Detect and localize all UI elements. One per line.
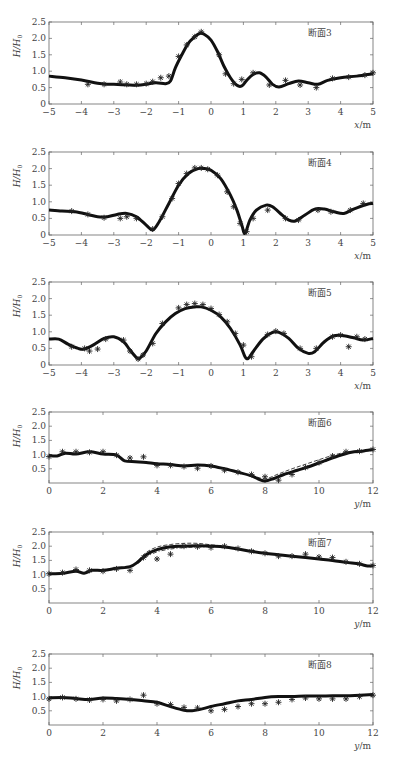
x-tick-label: −3 [107,368,121,378]
measured-point-marker [168,551,174,557]
measured-point-marker [362,72,368,78]
measured-point-marker [370,563,376,569]
x-tick-label: 0 [46,728,52,738]
x-tick-label: 3 [305,368,311,378]
measured-point-marker [87,348,93,354]
x-tick-label: 6 [208,606,214,616]
measured-point-marker [330,555,336,561]
measured-point-marker [124,214,130,220]
computed-curve [49,33,373,87]
x-tick-label: 4 [338,107,344,117]
measured-point-marker [95,346,101,352]
measured-point-marker [289,696,295,702]
chart-panel-section-3: −5−4−3−2−101234500.51.01.52.02.5H/H0x/m断… [12,17,376,130]
measured-point-marker [346,344,352,350]
measured-point-marker [87,449,93,455]
panel-title: 断面7 [308,537,332,548]
measured-point-marker [114,566,120,572]
measured-point-marker [330,334,336,340]
measured-point-marker [195,465,201,471]
measured-point-marker [168,702,174,708]
x-tick-label: 4 [338,238,344,248]
measured-point-marker [343,559,349,565]
x-tick-label: 0 [46,486,52,496]
y-tick-label: 1.0 [32,450,47,460]
y-axis-label: H/H0 [12,425,23,449]
measured-point-marker [357,448,363,454]
measured-point-marker [208,708,214,714]
x-tick-label: 2 [100,486,106,496]
measured-point-marker [303,464,309,470]
measured-point-marker [117,215,123,221]
measured-point-marker [60,694,66,700]
x-tick-label: 1 [241,107,247,117]
measured-point-marker [100,696,106,702]
measured-point-marker [121,337,127,343]
measured-point-marker [168,462,174,468]
y-tick-label: 2.0 [32,663,47,673]
measured-point-marker [357,561,363,567]
y-tick-label: 0.5 [32,584,47,594]
measured-point-marker [87,567,93,573]
panel-title: 断面4 [308,157,332,168]
x-tick-label: 10 [313,486,325,496]
measured-point-marker [150,226,156,232]
chart-panel-section-5: −5−4−3−2−101234500.51.01.52.02.5H/H0x/m断… [12,277,376,391]
measured-point-marker [330,75,336,81]
x-tick-label: −2 [140,107,153,117]
x-tick-label: 0 [208,238,214,248]
y-axis-label: H/H0 [12,295,23,319]
measured-point-marker [262,701,268,707]
measured-point-marker [222,706,228,712]
measured-point-marker [276,699,282,705]
measured-point-marker [232,330,238,336]
measured-point-marker [249,701,255,707]
measured-point-marker [85,211,91,217]
measured-point-marker [114,452,120,458]
y-tick-label: 0.5 [32,213,47,223]
x-tick-label: 4 [338,368,344,378]
x-tick-label: 8 [262,486,268,496]
measured-point-marker [343,696,349,702]
y-tick-label: 1.0 [32,692,47,702]
measured-point-marker [222,543,228,549]
y-tick-label: 1.5 [32,677,47,687]
measured-point-marker [87,697,93,703]
measured-point-marker [208,463,214,469]
measured-point-marker [117,79,123,85]
measured-point-marker [85,81,91,87]
measured-point-marker [195,544,201,550]
chart-panel-section-8: 0246810120.51.01.52.02.5H/H0y/m断面8 [12,649,379,751]
measured-point-marker [262,550,268,556]
y-tick-label: 2.0 [32,294,47,304]
y-tick-label: 2.0 [32,164,47,174]
measured-point-marker [154,701,160,707]
y-tick-label: 0.5 [32,706,47,716]
x-tick-label: −1 [172,238,185,248]
measured-point-marker [181,704,187,710]
measured-point-marker [82,345,88,351]
y-axis-label: H/H0 [12,545,23,569]
measured-point-marker [127,455,133,461]
y-tick-label: 2.5 [32,147,47,157]
x-tick-label: 3 [305,107,311,117]
measured-point-marker [249,548,255,554]
y-tick-label: 0.5 [32,464,47,474]
measured-point-marker [127,567,133,573]
x-tick-label: −2 [140,238,153,248]
measured-point-marker [297,345,303,351]
panel-title: 断面8 [308,659,332,670]
measured-point-marker [73,696,79,702]
x-tick-label: 5 [370,368,376,378]
y-tick-label: 1.0 [32,197,47,207]
x-tick-label: 1 [241,368,247,378]
figure-canvas: −5−4−3−2−101234500.51.01.52.02.5H/H0x/m断… [0,0,397,762]
measured-point-marker [316,460,322,466]
x-tick-label: 1 [241,238,247,248]
x-axis-label: x/m [354,251,371,261]
panel-title: 断面5 [308,287,332,298]
measured-point-marker [262,474,268,480]
measured-point-marker [195,705,201,711]
measured-point-marker [303,551,309,557]
panel-title: 断面3 [308,27,332,38]
